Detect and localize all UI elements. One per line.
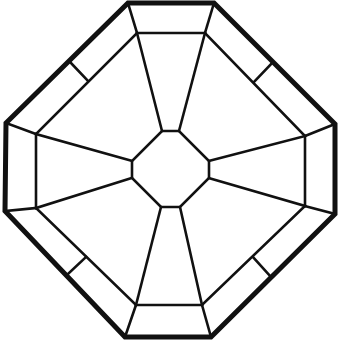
radial-spoke — [36, 134, 132, 161]
radial-spokes — [36, 33, 305, 305]
diagonal-tick — [253, 257, 270, 276]
corner-connectors — [5, 3, 335, 337]
corner-connector — [125, 305, 136, 337]
corner-connector — [128, 3, 137, 33]
corner-connector — [6, 123, 36, 134]
corner-connector — [305, 206, 335, 214]
radial-spoke — [180, 207, 202, 305]
radial-spoke — [209, 178, 305, 206]
radial-spoke — [36, 178, 132, 208]
center-octagon — [132, 131, 209, 207]
corner-connector — [5, 208, 36, 211]
octagon-diagram — [0, 0, 342, 347]
outer-octagon — [5, 3, 335, 337]
radial-spoke — [137, 33, 162, 131]
diagonal-ticks — [68, 62, 272, 276]
radial-spoke — [209, 136, 305, 161]
diagonal-tick — [254, 63, 272, 82]
corner-connector — [205, 3, 214, 33]
band-octagon — [36, 33, 305, 305]
radial-spoke — [136, 207, 161, 305]
diagonal-tick — [68, 257, 86, 274]
corner-connector — [305, 124, 335, 136]
radial-spoke — [179, 33, 205, 131]
diagonal-tick — [70, 62, 88, 81]
corner-connector — [202, 305, 211, 337]
